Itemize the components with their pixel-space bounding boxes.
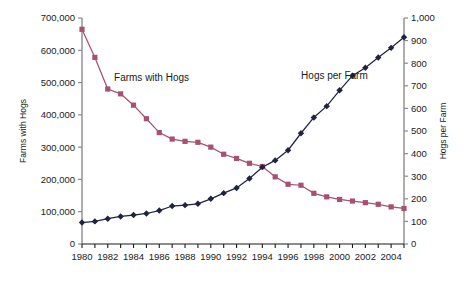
right-axis-tick-label: 600 (411, 103, 427, 114)
series-marker (170, 136, 175, 141)
series-marker (208, 196, 214, 202)
series-marker (298, 183, 303, 188)
x-axis-tick-label: 1982 (97, 251, 118, 262)
x-axis-tick-label: 2000 (329, 251, 350, 262)
left-axis-tick-label: 200,000 (41, 174, 75, 185)
series-marker (208, 145, 213, 150)
series-marker (221, 152, 226, 157)
x-axis-tick-label: 1986 (149, 251, 170, 262)
left-axis-tick-label: 700,000 (41, 12, 75, 23)
series-marker (389, 204, 394, 209)
series-marker (376, 202, 381, 207)
right-axis-tick-label: 0 (411, 238, 416, 249)
series-marker (285, 182, 290, 187)
series-line (82, 37, 404, 222)
series-marker (131, 103, 136, 108)
series-marker (324, 194, 329, 199)
series-marker (169, 203, 175, 209)
x-axis-tick-label: 2002 (355, 251, 376, 262)
right-axis-tick-label: 100 (411, 216, 427, 227)
series-marker (92, 55, 97, 60)
left-axis-tick-label: 300,000 (41, 142, 75, 153)
x-axis-tick-label: 2004 (381, 251, 402, 262)
right-axis-tick-label: 500 (411, 125, 427, 136)
series-marker (220, 190, 226, 196)
x-axis-tick-label: 1984 (123, 251, 144, 262)
annotation-farms-with-hogs: Farms with Hogs (114, 72, 189, 83)
series-marker (118, 91, 123, 96)
chart-container: 0100,000200,000300,000400,000500,000600,… (0, 0, 468, 281)
series-line (82, 29, 404, 208)
x-axis-tick-label: 1994 (252, 251, 273, 262)
series-marker (117, 213, 123, 219)
series-marker (350, 198, 355, 203)
series-marker (79, 27, 84, 32)
right-axis-tick-label: 800 (411, 58, 427, 69)
right-axis-tick-label: 300 (411, 171, 427, 182)
series-marker (105, 215, 111, 221)
series-marker (401, 206, 406, 211)
right-axis-tick-label: 200 (411, 193, 427, 204)
series-marker (363, 200, 368, 205)
series-marker (79, 219, 85, 225)
right-axis-tick-label: 1,000 (411, 12, 435, 23)
series-marker (156, 207, 162, 213)
data-series-group (79, 27, 407, 226)
series-marker (247, 161, 252, 166)
series-marker (130, 212, 136, 218)
right-axis-tick-label: 900 (411, 35, 427, 46)
series-marker (182, 139, 187, 144)
annotation-hogs-per-farm: Hogs per Farm (301, 70, 368, 81)
series-marker (92, 218, 98, 224)
series-marker (195, 201, 201, 207)
left-axis-tick-label: 400,000 (41, 109, 75, 120)
series-marker (182, 202, 188, 208)
left-axis: 0100,000200,000300,000400,000500,000600,… (41, 12, 82, 249)
x-axis-tick-label: 1992 (226, 251, 247, 262)
right-axis-tick-label: 400 (411, 148, 427, 159)
series-marker (105, 86, 110, 91)
series-marker (311, 191, 316, 196)
x-axis-tick-label: 1980 (71, 251, 92, 262)
series-marker (143, 210, 149, 216)
left-axis-tick-label: 100,000 (41, 206, 75, 217)
left-axis-tick-label: 0 (70, 238, 75, 249)
series-2 (79, 34, 407, 226)
farms-hogs-line-chart: 0100,000200,000300,000400,000500,000600,… (0, 0, 468, 281)
x-axis-tick-label: 1988 (174, 251, 195, 262)
x-axis-tick-label: 1990 (200, 251, 221, 262)
x-axis: 1980198219841986198819901992199419961998… (71, 244, 404, 262)
left-axis-tick-label: 500,000 (41, 77, 75, 88)
series-annotations: Farms with HogsHogs per Farm (114, 70, 368, 83)
x-axis-tick-label: 1998 (303, 251, 324, 262)
left-axis-tick-label: 600,000 (41, 45, 75, 56)
left-axis-title: Farms with Hogs (18, 99, 28, 163)
series-marker (234, 156, 239, 161)
right-axis-tick-label: 700 (411, 80, 427, 91)
series-marker (144, 116, 149, 121)
series-marker (195, 140, 200, 145)
right-axis: 01002003004005006007008009001,000 (404, 12, 435, 249)
series-marker (273, 174, 278, 179)
series-marker (337, 197, 342, 202)
series-marker (157, 130, 162, 135)
x-axis-tick-label: 1996 (278, 251, 299, 262)
right-axis-title: Hogs per Farm (438, 103, 448, 160)
